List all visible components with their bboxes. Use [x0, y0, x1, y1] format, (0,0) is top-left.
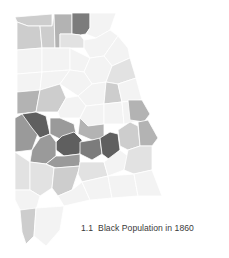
county-region: [42, 48, 70, 72]
county-region: [17, 48, 42, 74]
county-region: [124, 146, 152, 174]
county-region: [15, 152, 30, 190]
alabama-county-map: [0, 0, 229, 258]
county-region: [138, 120, 158, 146]
county-region: [34, 206, 64, 246]
county-region: [17, 22, 42, 50]
county-region: [108, 174, 138, 198]
county-region: [80, 138, 102, 160]
county-region: [20, 208, 36, 244]
figure-number: 1.1: [81, 223, 93, 233]
county-region: [134, 170, 162, 196]
county-region: [118, 122, 140, 150]
county-region: [17, 72, 42, 92]
county-layer: [15, 13, 162, 246]
county-region: [128, 100, 150, 122]
county-region: [104, 102, 124, 124]
county-region: [30, 162, 54, 196]
figure-caption: 1.1Black Population in 1860: [81, 223, 194, 233]
county-region: [60, 34, 84, 48]
figure-title: Black Population in 1860: [98, 223, 194, 233]
